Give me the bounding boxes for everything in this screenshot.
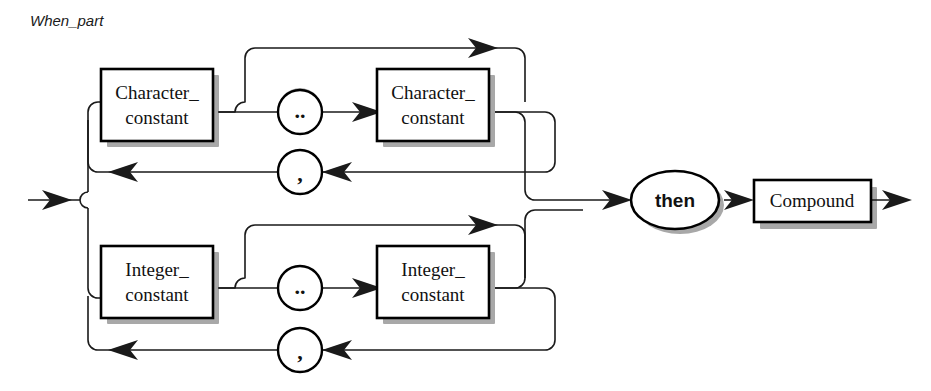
node-char-const-1[interactable]: Character_ constant	[101, 69, 213, 141]
node-comma-bottom[interactable]: ,	[278, 328, 322, 372]
node-int-const-1-line1: Integer_	[125, 259, 189, 280]
node-comma-top-label: ,	[297, 161, 303, 186]
node-char-const-2-line2: constant	[401, 107, 465, 128]
syntax-diagram-canvas: When_part	[0, 0, 931, 391]
node-int-const-2-line2: constant	[401, 284, 465, 305]
node-int-const-2[interactable]: Integer_ constant	[377, 246, 489, 318]
node-char-const-1-line1: Character_	[115, 82, 199, 103]
wire-merge-bottom	[525, 210, 583, 220]
node-char-const-2[interactable]: Character_ constant	[377, 69, 489, 141]
node-then-label: then	[655, 190, 695, 211]
railroad-diagram-svg: When_part	[0, 0, 931, 391]
node-char-const-1-line2: constant	[125, 107, 189, 128]
rule-title: When_part	[30, 12, 104, 29]
node-range-bottom-label: ..	[295, 274, 306, 299]
wire-merge-top	[525, 190, 583, 200]
wire-fork-spine	[72, 102, 100, 200]
node-char-const-2-line1: Character_	[391, 82, 475, 103]
node-int-const-1[interactable]: Integer_ constant	[101, 246, 213, 318]
wire-fork-knee	[80, 192, 88, 208]
wire-fork-spine-lower	[88, 208, 100, 298]
wire-bottom-box2-exit	[495, 220, 525, 288]
node-range-top[interactable]: ..	[278, 90, 322, 134]
node-compound[interactable]: Compound	[754, 180, 871, 222]
node-int-const-1-line2: constant	[125, 284, 189, 305]
node-comma-bottom-label: ,	[297, 339, 303, 364]
wire-top-box2-exit	[495, 112, 525, 190]
node-then-keyword[interactable]: then	[631, 171, 719, 229]
node-comma-top[interactable]: ,	[278, 150, 322, 194]
node-range-bottom[interactable]: ..	[278, 266, 322, 310]
node-range-top-label: ..	[295, 98, 306, 123]
node-int-const-2-line1: Integer_	[401, 259, 465, 280]
node-compound-label: Compound	[770, 190, 855, 211]
